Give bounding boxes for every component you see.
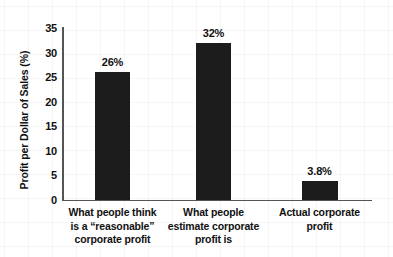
y-axis-tick-label: 25 [45,71,57,83]
bar-chart-figure: 05101520253035 Profit per Dollar of Sale… [0,0,393,257]
x-axis-category-label-line: is a “reasonable” [69,220,157,234]
y-axis-tick-label: 35 [45,22,57,34]
x-axis-category-label: What people thinkis a “reasonable”corpor… [69,206,157,247]
bar-value-label: 26% [102,56,123,68]
x-axis-category-label-line: Actual corporate [279,206,360,220]
x-axis-category-label-line: estimate corporate [168,220,259,234]
y-axis-tick-label: 30 [45,47,57,59]
x-axis-category-label-line: profit [279,220,360,234]
x-axis-category-label: Actual corporateprofit [279,206,360,233]
y-axis-tick-label: 20 [45,96,57,108]
y-axis-tick-label: 5 [51,169,57,181]
x-axis-category-label-line: corporate profit [69,233,157,247]
y-axis-title: Profit per Dollar of Sales (%) [18,30,30,210]
x-axis-category-label-line: What people [168,206,259,220]
bar-value-label: 3.8% [307,165,331,177]
bar-value-label: 32% [203,27,224,39]
bar [95,72,130,200]
y-axis-tick-label: 10 [45,145,57,157]
x-axis-category-label-line: profit is [168,233,259,247]
y-axis-tick-label: 0 [51,194,57,206]
bar [302,181,338,200]
x-axis-category-label-line: What people think [69,206,157,220]
bar [196,43,231,200]
y-axis-tick-label: 15 [45,120,57,132]
x-axis-category-label: What peopleestimate corporateprofit is [168,206,259,247]
